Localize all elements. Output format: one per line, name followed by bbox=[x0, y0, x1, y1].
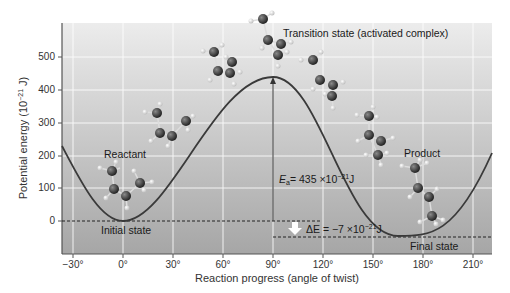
reactant-label: Reactant bbox=[104, 148, 146, 160]
final-state-label: Final state bbox=[410, 240, 459, 252]
y-axis-label: Potential energy (10−21 J) bbox=[17, 77, 29, 200]
product-label: Product bbox=[404, 147, 440, 159]
y-tick-label: 200 bbox=[38, 150, 55, 161]
y-tick-label: 0 bbox=[49, 215, 55, 226]
x-ticks bbox=[73, 254, 473, 258]
transition-state-label: Transition state (activated complex) bbox=[283, 27, 448, 39]
y-tick-label: 300 bbox=[38, 117, 55, 128]
x-tick-labels: −30° 0° 30° 60° 90° 120° 150° 180° 210° bbox=[63, 259, 484, 270]
y-tick-label: 100 bbox=[38, 182, 55, 193]
x-tick-label: −30° bbox=[63, 259, 84, 270]
x-axis-label: Reaction progress (angle of twist) bbox=[195, 272, 359, 284]
x-tick-label: 90° bbox=[265, 259, 280, 270]
y-tick-label: 500 bbox=[38, 51, 55, 62]
initial-state-label: Initial state bbox=[101, 224, 151, 236]
x-tick-label: 210° bbox=[463, 259, 484, 270]
x-tick-label: 180° bbox=[413, 259, 434, 270]
y-tick-label: 400 bbox=[38, 84, 55, 95]
y-tick-labels: 500 400 300 200 100 0 bbox=[38, 51, 55, 226]
x-tick-label: 30° bbox=[165, 259, 180, 270]
x-tick-label: 150° bbox=[363, 259, 384, 270]
x-tick-label: 120° bbox=[313, 259, 334, 270]
x-tick-label: 60° bbox=[215, 259, 230, 270]
x-tick-label: 0° bbox=[118, 259, 128, 270]
potential-energy-chart: 500 400 300 200 100 0 −30° 0° 30° 60° 90… bbox=[0, 0, 510, 293]
